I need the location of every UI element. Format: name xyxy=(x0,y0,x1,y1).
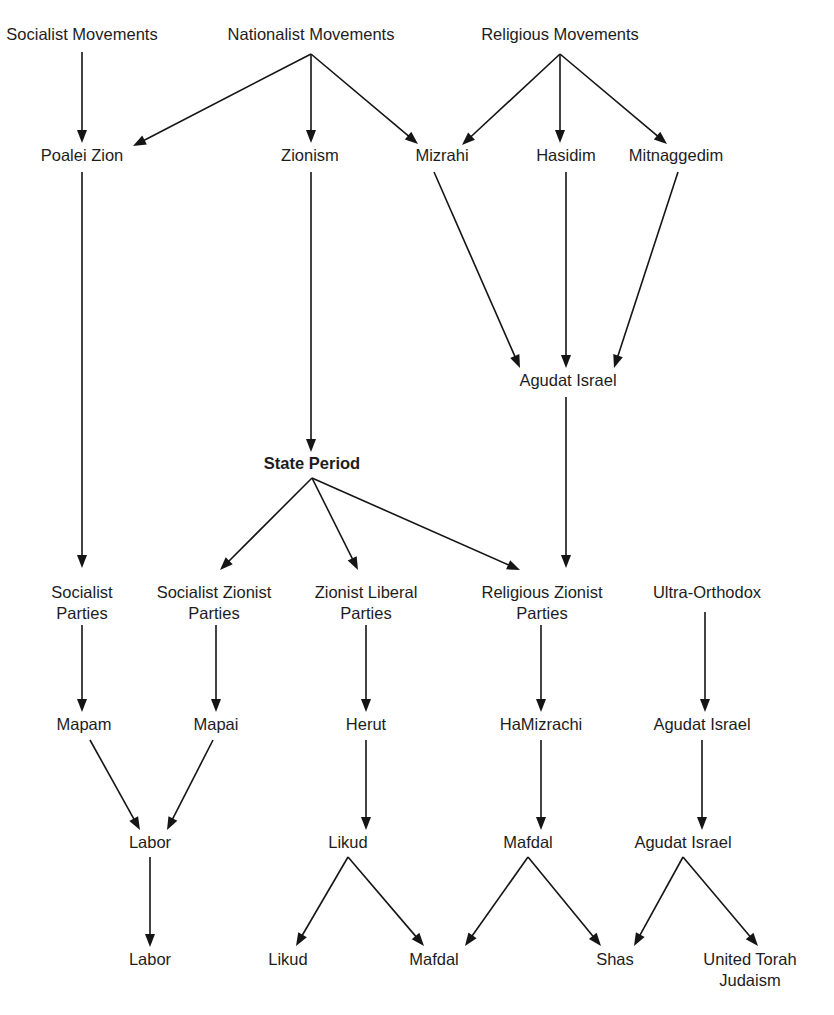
node-label-line: Parties xyxy=(188,604,239,622)
node-label-mafdal-final: Mafdal xyxy=(409,950,459,968)
edge-mapam-to-labor-mid xyxy=(90,740,140,830)
node-label-zionism: Zionism xyxy=(281,146,339,164)
node-label-line: Mafdal xyxy=(409,950,459,968)
node-label-religious-movements: Religious Movements xyxy=(481,25,639,43)
node-label-line: Mafdal xyxy=(503,833,553,851)
node-label-line: Socialist xyxy=(51,583,113,601)
node-label-line: Parties xyxy=(56,604,107,622)
edge-herut-to-likud-mid xyxy=(361,740,371,830)
arrow-head-icon xyxy=(145,934,155,947)
node-label-line: Likud xyxy=(328,833,367,851)
node-label-agudat-israel-top: Agudat Israel xyxy=(519,371,616,389)
node-label-hamizrachi: HaMizrachi xyxy=(500,715,583,733)
arrow-head-icon xyxy=(77,555,87,568)
arrow-head-icon xyxy=(361,817,371,830)
edge-agudat-israel-bottom-to-utj-final xyxy=(683,857,758,946)
node-label-likud-mid: Likud xyxy=(328,833,367,851)
edge-ultra-orthodox-to-agudat-israel-mid xyxy=(700,612,710,712)
node-label-mapam: Mapam xyxy=(56,715,111,733)
node-label-line: Mapam xyxy=(56,715,111,733)
node-label-line: Herut xyxy=(346,715,387,733)
edge-socialist-parties-to-mapam xyxy=(77,625,87,712)
edge-line xyxy=(617,172,678,358)
arrow-head-icon xyxy=(697,817,707,830)
edge-line xyxy=(470,54,560,138)
node-label-line: Parties xyxy=(340,604,391,622)
edge-religious-movements-to-mizrahi xyxy=(462,54,560,145)
node-label-nationalist-movements: Nationalist Movements xyxy=(228,25,395,43)
node-label-socialist-movements: Socialist Movements xyxy=(6,25,157,43)
node-label-line: Agudat Israel xyxy=(519,371,616,389)
edge-likud-mid-to-mafdal-final xyxy=(348,857,424,946)
arrow-head-icon xyxy=(348,556,358,570)
node-label-line: Labor xyxy=(129,950,172,968)
arrow-head-icon xyxy=(700,699,710,712)
arrow-head-icon xyxy=(361,699,371,712)
edge-line xyxy=(639,857,683,936)
node-label-line: Likud xyxy=(268,950,307,968)
edge-state-period-to-religious-zionist-parties xyxy=(312,478,520,570)
edge-nationalist-movements-to-poalei-zion xyxy=(133,54,311,146)
edge-poalei-zion-to-socialist-parties xyxy=(77,172,87,568)
node-label-shas-final: Shas xyxy=(596,950,634,968)
diagram-root: Socialist MovementsNationalist Movements… xyxy=(0,0,834,1015)
node-label-line: Religious Zionist xyxy=(481,583,602,601)
arrow-head-icon xyxy=(561,555,571,568)
node-label-utj-final: United TorahJudaism xyxy=(703,950,796,989)
arrow-head-icon xyxy=(506,560,520,570)
edge-nationalist-movements-to-zionism xyxy=(306,54,316,143)
edges-layer xyxy=(77,52,758,947)
arrow-head-icon xyxy=(561,355,571,368)
edge-labor-mid-to-labor-final xyxy=(145,857,155,947)
arrow-head-icon xyxy=(129,816,140,830)
edge-mafdal-mid-to-shas-final xyxy=(528,857,601,946)
edge-mafdal-mid-to-mafdal-final xyxy=(465,857,528,946)
node-label-mitnaggedim: Mitnaggedim xyxy=(629,146,723,164)
node-label-line: Ultra-Orthodox xyxy=(653,583,762,601)
node-label-line: Labor xyxy=(129,833,172,851)
node-label-line: Judaism xyxy=(719,971,780,989)
edge-religious-movements-to-mitnaggedim xyxy=(560,54,667,144)
edge-religious-zionist-parties-to-hamizrachi xyxy=(536,625,546,712)
arrow-head-icon xyxy=(133,136,147,146)
node-label-line: Mapai xyxy=(194,715,239,733)
arrow-head-icon xyxy=(510,354,520,368)
node-label-likud-final: Likud xyxy=(268,950,307,968)
arrow-head-icon xyxy=(589,933,601,946)
node-label-socialist-parties: SocialistParties xyxy=(51,583,113,622)
edge-line xyxy=(311,54,410,137)
arrow-head-icon xyxy=(77,699,87,712)
node-label-line: Agudat Israel xyxy=(653,715,750,733)
edge-line xyxy=(143,54,311,141)
edge-state-period-to-zionist-liberal-parties xyxy=(312,478,358,570)
node-label-hasidim: Hasidim xyxy=(536,146,596,164)
edge-state-period-to-socialist-zionist-parties xyxy=(220,478,312,570)
node-label-line: HaMizrachi xyxy=(500,715,583,733)
arrow-head-icon xyxy=(296,932,307,946)
node-label-zionist-liberal-parties: Zionist LiberalParties xyxy=(315,583,418,622)
edge-line xyxy=(90,740,135,820)
arrow-head-icon xyxy=(613,354,623,368)
node-label-line: Socialist Zionist xyxy=(157,583,272,601)
edge-agudat-israel-bottom-to-shas-final xyxy=(634,857,683,946)
arrow-head-icon xyxy=(555,130,565,143)
node-label-mapai: Mapai xyxy=(194,715,239,733)
edge-socialist-zionist-parties-to-mapai xyxy=(211,625,221,712)
edge-hasidim-to-agudat-israel-top xyxy=(561,172,571,368)
node-label-herut: Herut xyxy=(346,715,387,733)
edge-mizrahi-to-agudat-israel-top xyxy=(434,172,520,368)
node-label-line: Shas xyxy=(596,950,634,968)
edge-line xyxy=(312,478,353,560)
edge-line xyxy=(172,740,213,820)
edge-nationalist-movements-to-mizrahi xyxy=(311,54,418,144)
arrow-head-icon xyxy=(536,699,546,712)
edge-hamizrachi-to-mafdal-mid xyxy=(536,740,546,830)
nodes-layer: Socialist MovementsNationalist Movements… xyxy=(6,25,796,989)
edge-line xyxy=(302,857,348,937)
edge-line xyxy=(312,478,510,566)
edge-religious-movements-to-hasidim xyxy=(555,54,565,143)
arrow-head-icon xyxy=(306,130,316,143)
node-label-socialist-zionist-parties: Socialist ZionistParties xyxy=(157,583,272,622)
arrow-head-icon xyxy=(167,816,177,830)
node-label-line: Mitnaggedim xyxy=(629,146,723,164)
